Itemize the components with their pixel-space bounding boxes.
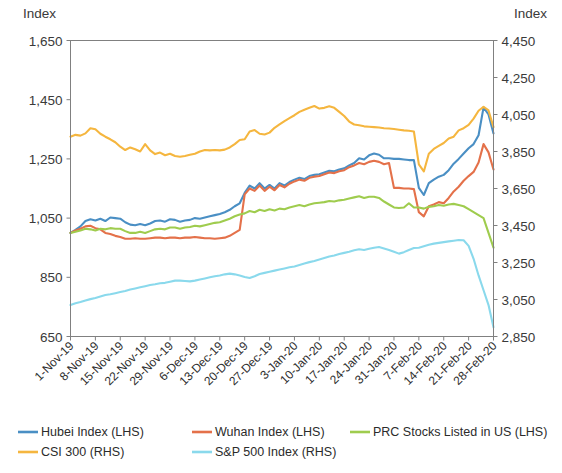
right-axis-tick-label: 3,250 <box>502 256 536 271</box>
left-axis-tick-label: 1,450 <box>29 93 63 108</box>
chart-legend: Hubei Index (LHS)Wuhan Index (LHS)PRC St… <box>18 425 547 459</box>
right-axis-title: Index <box>514 6 547 21</box>
right-axis-tick-label: 3,850 <box>502 145 536 160</box>
index-comparison-line-chart: Index Index 6508501,0501,2501,4501,650 2… <box>0 0 562 473</box>
left-axis-tick-label: 650 <box>40 330 63 345</box>
right-axis-tick-label: 3,650 <box>502 182 536 197</box>
series-line-0 <box>71 107 494 232</box>
legend-label-0-0: Hubei Index (LHS) <box>41 425 144 439</box>
left-axis-tick-label: 1,250 <box>29 152 63 167</box>
plot-frame <box>71 41 494 337</box>
right-axis-tick-label: 2,850 <box>502 330 536 345</box>
right-axis-tick-label: 4,050 <box>502 108 536 123</box>
series-line-group <box>71 106 494 327</box>
right-axis-tick-group: 2,8503,0503,2503,4503,6503,8504,0504,250… <box>494 34 536 345</box>
right-axis-tick-label: 3,450 <box>502 219 536 234</box>
left-axis-tick-group: 6508501,0501,2501,4501,650 <box>29 34 71 345</box>
left-axis-tick-label: 850 <box>40 270 63 285</box>
legend-label-1-1: S&P 500 Index (RHS) <box>215 445 336 459</box>
left-axis-tick-label: 1,650 <box>29 34 63 49</box>
x-axis-tick-group: 1-Nov-198-Nov-1915-Nov-1922-Nov-1929-Nov… <box>32 337 500 389</box>
left-axis-tick-label: 1,050 <box>29 211 63 226</box>
legend-label-0-1: Wuhan Index (LHS) <box>215 425 325 439</box>
series-line-4 <box>71 240 494 327</box>
right-axis-tick-label: 4,250 <box>502 71 536 86</box>
legend-label-1-0: CSI 300 (RHS) <box>41 445 124 459</box>
series-line-2 <box>71 196 494 248</box>
left-axis-title: Index <box>23 6 56 21</box>
chart-container: Index Index 6508501,0501,2501,4501,650 2… <box>0 0 562 473</box>
right-axis-tick-label: 4,450 <box>502 34 536 49</box>
legend-label-0-2: PRC Stocks Listed in US (LHS) <box>373 425 547 439</box>
series-line-3 <box>71 106 494 171</box>
right-axis-tick-label: 3,050 <box>502 293 536 308</box>
